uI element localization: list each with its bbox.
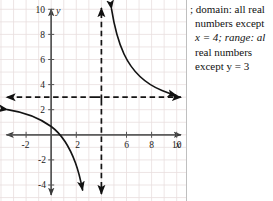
answer-line: numbers except <box>190 16 273 30</box>
x-tick-label: 2 <box>75 140 80 150</box>
x-tick-label: 6 <box>124 140 129 150</box>
y-tick-label: -2 <box>38 155 46 165</box>
curve-left-branch <box>8 110 83 190</box>
answer-line: x = 4; range: al <box>190 30 273 44</box>
answer-text-block: ; domain: all real numbers except x = 4;… <box>190 2 273 73</box>
y-tick-label: 2 <box>40 105 45 115</box>
y-tick-label: 4 <box>40 80 45 90</box>
x-tick-label: -2 <box>22 140 30 150</box>
y-tick-label: 8 <box>40 30 45 40</box>
x-tick-label: 8 <box>149 140 154 150</box>
axes <box>7 9 182 195</box>
graph-svg: 10 8 6 4 2 -2 -4 -2 2 6 8 10 y x <box>0 0 187 201</box>
y-tick-label: 10 <box>36 5 46 15</box>
y-tick-label: -4 <box>38 180 46 190</box>
panel-divider <box>186 0 187 201</box>
y-axis-label: y <box>55 5 61 16</box>
answer-line: real numbers <box>190 45 273 59</box>
coordinate-graph: 10 8 6 4 2 -2 -4 -2 2 6 8 10 y x <box>0 0 187 201</box>
asymptotes <box>7 8 182 194</box>
grid-lines <box>0 0 187 201</box>
figure-root: 10 8 6 4 2 -2 -4 -2 2 6 8 10 y x ; domai… <box>0 0 273 201</box>
x-axis-label: x <box>175 139 181 150</box>
function-curves <box>8 9 177 190</box>
y-tick-label: 6 <box>40 55 45 65</box>
answer-line: except y = 3 <box>190 59 273 73</box>
answer-line: ; domain: all real <box>190 2 273 16</box>
